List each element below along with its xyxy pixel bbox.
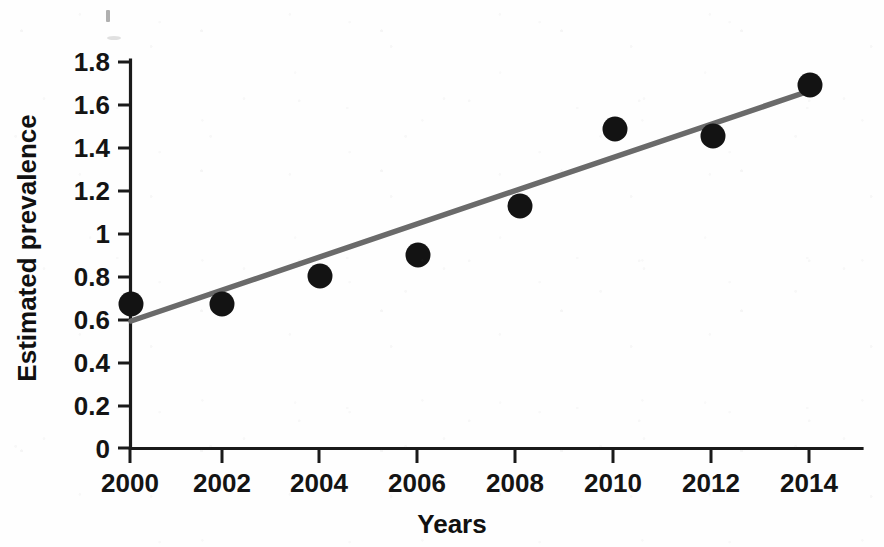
data-point [406, 243, 431, 268]
data-point [798, 73, 823, 98]
y-tick-labels: 1.8 1.6 1.4 1.2 1 0.8 0.6 0.4 0.2 0 [74, 47, 111, 464]
x-axis-title: Years [417, 509, 486, 539]
y-tick-label: 1.2 [74, 176, 110, 206]
y-tick-label: 0.8 [74, 262, 110, 292]
x-tick-label: 2006 [388, 468, 446, 498]
scatter-plot-canvas: 1.8 1.6 1.4 1.2 1 0.8 0.6 0.4 0.2 0 2000… [0, 0, 884, 547]
y-tick-label: 1.6 [74, 90, 110, 120]
x-tick-label: 2002 [193, 468, 251, 498]
y-tick-label: 1 [96, 219, 110, 249]
y-tick-label: 0 [96, 434, 110, 464]
y-tick-label: 0.4 [74, 348, 111, 378]
y-tick-label: 0.2 [74, 391, 110, 421]
data-points [119, 73, 823, 317]
x-tick-label: 2014 [780, 468, 838, 498]
y-axis-title: Estimated prevalence [12, 114, 42, 381]
x-tick-label: 2008 [486, 468, 544, 498]
chart-figure: 1.8 1.6 1.4 1.2 1 0.8 0.6 0.4 0.2 0 2000… [0, 0, 884, 547]
data-point [210, 292, 235, 317]
data-point [119, 292, 144, 317]
y-tick-marks [118, 62, 130, 448]
scan-artifact [106, 10, 121, 40]
x-tick-labels: 2000 2002 2004 2006 2008 2010 2012 2014 [101, 468, 838, 498]
x-tick-marks [130, 449, 809, 463]
x-tick-label: 2010 [584, 468, 642, 498]
data-point [308, 264, 333, 289]
data-point [701, 124, 726, 149]
trend-line [131, 88, 818, 321]
y-tick-label: 0.6 [74, 305, 110, 335]
axis-lines [131, 60, 863, 449]
x-tick-label: 2004 [290, 468, 348, 498]
y-tick-label: 1.8 [74, 47, 110, 77]
x-tick-label: 2012 [682, 468, 740, 498]
y-tick-label: 1.4 [74, 133, 111, 163]
data-point [508, 194, 533, 219]
x-tick-label: 2000 [101, 468, 159, 498]
data-point [603, 117, 628, 142]
